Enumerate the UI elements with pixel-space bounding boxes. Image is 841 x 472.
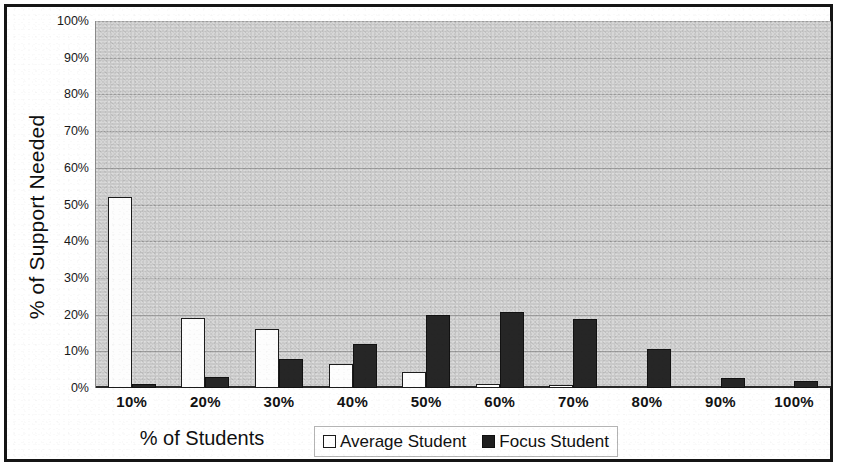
legend-swatch-hollow-square-icon	[323, 435, 336, 448]
chart-legend: Average Student Focus Student	[314, 426, 618, 457]
gridline	[96, 131, 831, 132]
gridline	[96, 278, 831, 279]
x-tick-label: 40%	[316, 393, 390, 410]
gridline	[96, 315, 831, 316]
x-tick-label: 30%	[242, 393, 316, 410]
y-tick-label: 0%	[43, 381, 89, 395]
y-tick-label: 100%	[43, 14, 89, 28]
x-tick-label: 20%	[169, 393, 243, 410]
y-tick-label: 70%	[43, 124, 89, 138]
y-tick-label: 90%	[43, 51, 89, 65]
x-axis-baseline	[96, 386, 831, 388]
x-axis-tick-labels: 10%20%30%40%50%60%70%80%90%100%	[95, 393, 831, 410]
gridline	[96, 21, 831, 22]
gridline	[96, 58, 831, 59]
legend-item-average-student: Average Student	[323, 432, 466, 452]
x-tick-label: 60%	[463, 393, 537, 410]
y-axis-tick-labels: 100% 90% 80% 70% 60% 50% 40% 30% 20% 10%…	[41, 21, 89, 388]
y-tick-label: 80%	[43, 87, 89, 101]
legend-label: Focus Student	[499, 432, 609, 452]
x-tick-label: 10%	[95, 393, 169, 410]
gridline	[96, 94, 831, 95]
y-tick-label: 30%	[43, 271, 89, 285]
x-tick-label: 80%	[610, 393, 684, 410]
x-tick-label: 100%	[757, 393, 831, 410]
y-tick-label: 50%	[43, 198, 89, 212]
legend-item-focus-student: Focus Student	[482, 432, 609, 452]
gridline	[96, 168, 831, 169]
y-tick-label: 10%	[43, 344, 89, 358]
plot-area	[95, 21, 831, 388]
y-tick-label: 60%	[43, 161, 89, 175]
legend-label: Average Student	[340, 432, 466, 452]
x-axis-title: % of Students	[87, 427, 317, 450]
x-tick-label: 50%	[389, 393, 463, 410]
legend-swatch-filled-square-icon	[482, 435, 495, 448]
gridline	[96, 241, 831, 242]
gridline	[96, 205, 831, 206]
x-tick-label: 90%	[684, 393, 758, 410]
x-tick-label: 70%	[537, 393, 611, 410]
chart-figure-frame: % of Support Needed 100% 90% 80% 70% 60%…	[4, 4, 833, 462]
y-tick-label: 20%	[43, 308, 89, 322]
gridline	[96, 351, 831, 352]
y-tick-label: 40%	[43, 234, 89, 248]
